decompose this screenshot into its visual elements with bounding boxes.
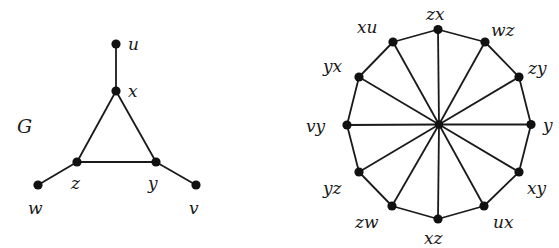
- spoke-edge-xy: [439, 125, 519, 173]
- vertex-label-zw: zw: [354, 212, 379, 232]
- vertex-label-zx: zx: [425, 4, 445, 24]
- vertex-vy: [342, 120, 351, 129]
- vertex-label-yx: yx: [322, 56, 343, 76]
- vertex-label-v: v: [189, 198, 199, 218]
- cycle-edge-zw-yz: [359, 172, 392, 206]
- derived-graph: zxwzzyyxyuxxzzwyzvyyxxu: [306, 4, 553, 248]
- vertex-zy: [514, 72, 523, 81]
- vertex-label-vy: vy: [306, 116, 326, 136]
- vertex-label-u: u: [128, 34, 139, 54]
- spoke-edge-zw: [392, 125, 439, 207]
- spoke-edge-zx: [438, 30, 439, 125]
- vertex-label-yv: y: [542, 115, 553, 135]
- cycle-edge-xy-ux: [484, 172, 519, 206]
- vertex-u: [111, 39, 120, 48]
- spoke-edge-zy: [439, 77, 519, 125]
- cycle-edge-ux-xz: [438, 206, 484, 219]
- vertex-label-ux: ux: [493, 212, 514, 232]
- vertex-yx: [354, 72, 363, 81]
- cycle-edge-vy-yx: [347, 77, 359, 125]
- vertex-label-yz: yz: [322, 178, 343, 198]
- spoke-edge-vy: [347, 125, 439, 126]
- vertex-yz: [354, 167, 363, 176]
- cycle-edge-yz-vy: [347, 125, 359, 172]
- vertex-label-w: w: [28, 198, 43, 218]
- vertex-y: [151, 157, 160, 166]
- vertex-label-y: y: [147, 173, 158, 193]
- graph-g: uxzywv G: [17, 34, 201, 218]
- vertex-x: [111, 86, 120, 95]
- center-vertex: [435, 120, 443, 128]
- vertex-label-x: x: [128, 81, 138, 101]
- cycle-edge-wz-zy: [485, 42, 519, 77]
- edge-x-z: [77, 91, 116, 162]
- spoke-edge-ux: [439, 125, 484, 207]
- spoke-edge-yx: [359, 77, 439, 125]
- vertex-ux: [479, 201, 488, 210]
- vertex-v: [191, 180, 200, 189]
- spoke-edge-yz: [359, 125, 439, 173]
- graph-g-labels: uxzywv: [28, 34, 199, 218]
- vertex-label-z: z: [70, 173, 81, 193]
- edge-y-v: [156, 162, 196, 185]
- vertex-xy: [514, 167, 523, 176]
- graph-name-label: G: [17, 115, 32, 137]
- cycle-edge-zy-yv: [519, 77, 531, 125]
- vertex-wz: [480, 37, 489, 46]
- graph-g-vertices: [33, 39, 200, 189]
- cycle-edge-yv-xy: [519, 125, 531, 173]
- graph-g-edges: [38, 44, 196, 185]
- vertex-label-xy: xy: [527, 178, 547, 198]
- vertex-w: [33, 180, 42, 189]
- vertex-yv: [526, 120, 535, 129]
- vertex-z: [72, 157, 81, 166]
- diagram-canvas: uxzywv G zxwzzyyxyuxxzzwyzvyyxxu: [0, 0, 559, 248]
- vertex-label-wz: wz: [491, 20, 516, 40]
- vertex-xu: [388, 37, 397, 46]
- vertex-label-xu: xu: [357, 17, 378, 37]
- cycle-edge-xz-zw: [392, 206, 438, 219]
- spoke-edge-xz: [438, 125, 439, 220]
- vertex-zx: [433, 25, 442, 34]
- spoke-edge-wz: [439, 42, 485, 125]
- cycle-edge-yx-xu: [359, 42, 393, 77]
- edge-x-y: [116, 91, 156, 162]
- cycle-edge-zx-wz: [438, 30, 485, 43]
- cycle-edge-xu-zx: [393, 30, 438, 43]
- vertex-xz: [433, 214, 442, 223]
- spoke-edge-xu: [393, 42, 439, 125]
- vertex-zw: [387, 201, 396, 210]
- vertex-label-xz: xz: [424, 228, 444, 248]
- vertex-label-zy: zy: [527, 58, 547, 78]
